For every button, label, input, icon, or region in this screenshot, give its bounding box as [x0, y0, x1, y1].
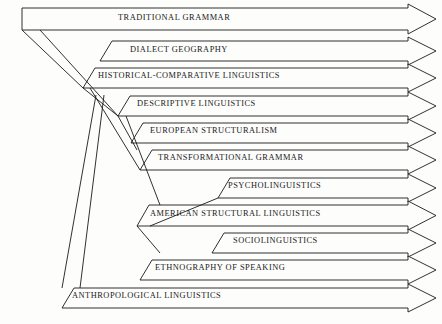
- connector-line-6: [62, 95, 96, 288]
- band-label-5: TRANSFORMATIONAL GRAMMAR: [158, 154, 303, 162]
- connector-line-7: [80, 95, 104, 288]
- band-label-6: PSYCHOLINGUISTICS: [228, 182, 321, 190]
- band-label-1: DIALECT GEOGRAPHY: [130, 46, 228, 54]
- connector-line-0: [22, 30, 83, 88]
- connector-line-8: [137, 226, 160, 253]
- band-label-0: TRADITIONAL GRAMMAR: [118, 14, 230, 22]
- band-label-3: DESCRIPTIVE LINGUISTICS: [137, 100, 256, 108]
- band-label-4: EUROPEAN STRUCTURALISM: [150, 127, 278, 135]
- band-label-8: SOCIOLINGUISTICS: [233, 237, 318, 245]
- connector-line-2: [83, 88, 118, 116]
- band-label-7: AMERICAN STRUCTURAL LINGUISTICS: [150, 210, 321, 218]
- band-label-2: HISTORICAL-COMPARATIVE LINGUISTICS: [98, 72, 280, 80]
- band-label-10: ANTHROPOLOGICAL LINGUISTICS: [72, 292, 221, 300]
- band-label-9: ETHNOGRAPHY OF SPEAKING: [155, 264, 285, 272]
- diagram-canvas: TRADITIONAL GRAMMARDIALECT GEOGRAPHYHIST…: [0, 0, 442, 324]
